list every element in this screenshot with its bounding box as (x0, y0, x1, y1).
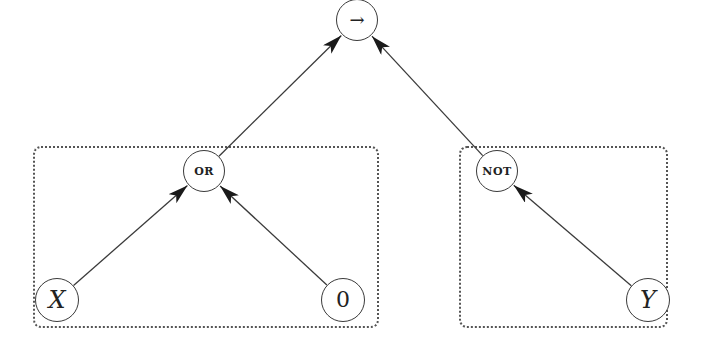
edge-x-to-or (74, 186, 188, 286)
edge-or-to-imp (219, 35, 341, 156)
node-y: Y (626, 278, 670, 322)
node-implies: → (336, 0, 378, 41)
node-x: X (35, 278, 79, 322)
node-label: OR (194, 166, 214, 177)
edge-y-to-not (514, 185, 632, 285)
node-label: Y (640, 288, 656, 312)
node-zero: 0 (321, 278, 365, 322)
edge-zero-to-or (220, 186, 327, 285)
node-label: → (349, 11, 364, 29)
node-or: OR (183, 150, 225, 192)
edge-not-to-imp (372, 36, 483, 155)
node-label: NOT (482, 166, 511, 177)
node-label: X (48, 288, 65, 312)
expression-tree-diagram: → OR NOT X 0 Y (0, 0, 704, 343)
node-label: 0 (336, 289, 350, 311)
node-not: NOT (476, 150, 518, 192)
